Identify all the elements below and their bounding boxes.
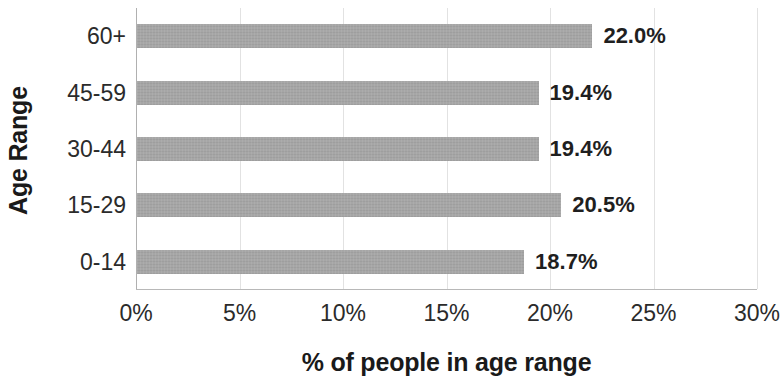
y-axis-tick-label: 0-14 (80, 247, 126, 277)
x-axis-tick-label: 20% (527, 300, 573, 327)
gridline (757, 8, 758, 289)
y-axis-tick-label: 15-29 (67, 190, 126, 220)
x-axis-tick-label: 25% (630, 300, 676, 327)
y-axis-title-text: Age Range (4, 86, 33, 215)
x-axis-tick-label: 5% (223, 300, 256, 327)
gridline (654, 8, 655, 289)
x-axis-tick-label: 0% (119, 300, 152, 327)
bar (137, 250, 524, 274)
bar-value-label: 20.5% (572, 193, 634, 217)
plot-area: 18.7%20.5%19.4%19.4%22.0% (136, 8, 757, 290)
x-axis-tick-label: 30% (734, 300, 780, 327)
bar-chart: Age Range 0-1415-2930-4445-5960+ 18.7%20… (0, 0, 781, 389)
bar (137, 81, 539, 105)
y-axis-tick-label: 30-44 (67, 134, 126, 164)
bar-value-label: 18.7% (535, 250, 597, 274)
y-axis-tick-labels: 0-1415-2930-4445-5960+ (36, 8, 132, 290)
x-axis-tick-labels: 0%5%10%15%20%25%30% (136, 300, 757, 334)
x-axis-tick-label: 10% (320, 300, 366, 327)
y-axis-title: Age Range (0, 0, 36, 300)
x-axis-tick-label: 15% (423, 300, 469, 327)
bar (137, 193, 561, 217)
bar (137, 137, 539, 161)
x-axis-title: % of people in age range (136, 348, 757, 377)
y-axis-tick-label: 45-59 (67, 78, 126, 108)
bar-value-label: 19.4% (550, 81, 612, 105)
bar-value-label: 19.4% (550, 137, 612, 161)
bar (137, 24, 592, 48)
y-axis-tick-label: 60+ (87, 21, 126, 51)
bar-value-label: 22.0% (603, 24, 665, 48)
x-axis-line (136, 289, 757, 290)
